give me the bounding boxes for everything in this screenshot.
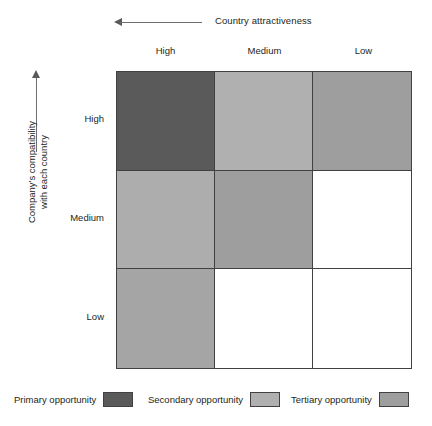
matrix-cell	[215, 72, 313, 171]
matrix-cell	[313, 269, 411, 368]
matrix-cell	[117, 72, 215, 171]
x-axis-label: Country attractiveness	[215, 15, 312, 26]
matrix-cell	[117, 171, 215, 270]
matrix-cell	[313, 72, 411, 171]
legend-swatch	[379, 392, 409, 407]
matrix-cell	[215, 269, 313, 368]
legend: Primary opportunity Secondary opportunit…	[0, 388, 432, 412]
legend-label: Secondary opportunity	[148, 394, 243, 405]
matrix-cell	[215, 171, 313, 270]
legend-swatch	[250, 392, 280, 407]
matrix-grid	[116, 71, 412, 369]
legend-swatch	[103, 392, 133, 407]
x-axis-header: Country attractiveness	[0, 0, 432, 40]
row-header-medium: Medium	[42, 212, 104, 223]
legend-item-secondary: Secondary opportunity	[148, 388, 280, 410]
legend-item-tertiary: Tertiary opportunity	[291, 388, 409, 410]
up-arrow-icon	[32, 70, 40, 78]
column-header-high: High	[116, 45, 215, 56]
legend-label: Primary opportunity	[14, 394, 96, 405]
column-header-medium: Medium	[215, 45, 314, 56]
matrix-cell	[313, 171, 411, 270]
legend-label: Tertiary opportunity	[291, 394, 372, 405]
opportunity-matrix-figure: Country attractiveness High Medium Low C…	[0, 0, 432, 426]
legend-item-primary: Primary opportunity	[14, 388, 133, 410]
column-header-low: Low	[314, 45, 413, 56]
row-header-low: Low	[42, 311, 104, 322]
x-axis-arrow-line	[120, 22, 202, 23]
matrix-cell	[117, 269, 215, 368]
y-axis-label-line1: Company's compatibility	[26, 92, 38, 252]
row-header-high: High	[42, 113, 104, 124]
